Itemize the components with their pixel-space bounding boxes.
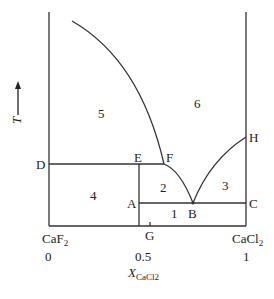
left-component-main: CaF [42, 231, 64, 246]
point-label-A: A [127, 197, 136, 210]
point-label-B: B [188, 207, 197, 220]
right-component-sub: 2 [259, 238, 264, 248]
x-axis-label-main: X [128, 265, 136, 280]
point-label-D: D [36, 158, 45, 171]
region-label-1: 1 [171, 207, 178, 220]
region-label-4: 4 [90, 189, 97, 202]
point-label-G: G [145, 229, 154, 242]
liquidus-curve-upper [72, 21, 164, 164]
eutectic-point-B [192, 202, 195, 205]
x-tick-0.5: 0.5 [135, 250, 151, 263]
liquidus-curve-B-H [193, 137, 246, 203]
point-label-C: C [249, 197, 258, 210]
region-label-3: 3 [222, 179, 229, 192]
point-label-F: F [166, 151, 173, 164]
y-axis-label: T [10, 117, 23, 124]
x-axis-label-sub: CaCl2 [136, 272, 159, 282]
right-component-label: CaCl2 [232, 232, 263, 248]
region-label-2: 2 [160, 181, 167, 194]
curve-F-B [164, 164, 193, 203]
left-component-label: CaF2 [42, 232, 68, 248]
point-label-E: E [134, 151, 142, 164]
right-component-main: CaCl [232, 231, 259, 246]
point-label-H: H [249, 131, 258, 144]
arrow-head-icon [15, 81, 21, 89]
x-tick-1: 1 [243, 250, 250, 263]
x-tick-0: 0 [45, 250, 52, 263]
region-label-5: 5 [98, 107, 105, 120]
left-component-sub: 2 [64, 238, 69, 248]
region-label-6: 6 [194, 97, 201, 110]
x-axis-label: XCaCl2 [128, 266, 159, 282]
